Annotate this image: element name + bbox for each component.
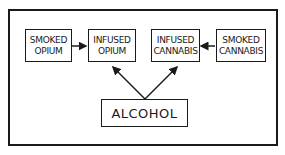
node-label-line: CANNABIS [219,46,263,57]
node-label-line: ALCOHOL [111,108,177,119]
arrows-layer [0,0,285,155]
arrow-alcohol-to-infused-opium [113,67,145,99]
arrow-alcohol-to-infused-cannabis [145,67,177,99]
node-infused-cannabis: INFUSED CANNABIS [151,29,200,62]
node-alcohol: ALCOHOL [101,99,188,127]
node-label-line: OPIUM [34,46,62,57]
node-smoked-opium: SMOKED OPIUM [25,29,72,62]
node-label-line: CANNABIS [153,46,197,57]
node-infused-opium: INFUSED OPIUM [88,29,136,62]
node-smoked-cannabis: SMOKED CANNABIS [216,29,266,62]
node-label-line: INFUSED [93,35,130,46]
node-label-line: SMOKED [222,35,259,46]
node-label-line: SMOKED [30,35,67,46]
node-label-line: INFUSED [157,35,194,46]
node-label-line: OPIUM [98,46,126,57]
